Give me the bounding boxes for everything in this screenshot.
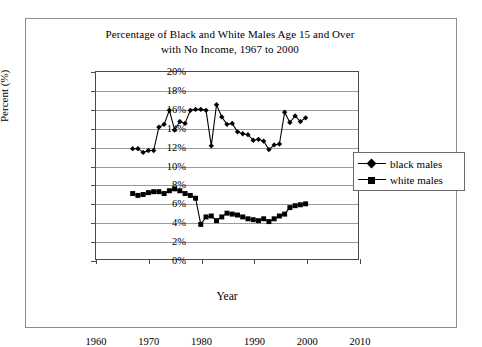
y-tick [91,129,96,130]
x-tick-label: 1960 [86,336,107,347]
y-tick-label: 8% [172,180,186,191]
chart-title-line-2: with No Income, 1967 to 2000 [40,42,420,57]
y-axis-ticks [96,72,358,259]
x-tick [202,259,203,264]
x-tick-label: 2000 [297,336,318,347]
y-tick-label: 10% [167,162,186,173]
square-marker-icon [358,173,386,187]
y-tick-label: 12% [167,143,186,154]
y-tick-label: 14% [167,124,186,135]
y-tick-label: 6% [172,199,186,210]
y-tick-label: 16% [167,105,186,116]
chart-legend: black males white males [353,152,465,191]
legend-item-white-males: white males [358,172,460,188]
y-tick-label: 0% [172,256,186,267]
chart-title: Percentage of Black and White Males Age … [40,27,420,57]
legend-label-black-males: black males [386,158,442,170]
y-tick-label: 4% [172,218,186,229]
y-tick [91,72,96,73]
y-tick [91,148,96,149]
y-tick [91,204,96,205]
x-tick [307,259,308,264]
y-tick [91,185,96,186]
x-tick [149,259,150,264]
y-tick-label: 20% [167,67,186,78]
y-axis-title: Percent (%) [0,70,10,122]
x-tick [96,259,97,264]
plot-area: 0%2%4%6%8%10%12%14%16%18%20% 19601970198… [95,71,359,260]
x-tick-label: 1990 [244,336,265,347]
y-tick [91,223,96,224]
legend-label-white-males: white males [386,174,443,186]
y-tick [91,242,96,243]
x-tick-label: 1970 [138,336,159,347]
x-axis-ticks [96,259,358,264]
y-tick [91,91,96,92]
x-tick-label: 2010 [350,336,371,347]
x-axis-title: Year [95,290,359,302]
y-tick-label: 18% [167,86,186,97]
y-axis-tick-labels: 0%2%4%6%8%10%12%14%16%18%20% [148,72,186,259]
chart-title-line-1: Percentage of Black and White Males Age … [40,27,420,42]
x-tick [360,259,361,264]
x-tick-label: 1980 [191,336,212,347]
y-tick [91,110,96,111]
y-tick-label: 2% [172,237,186,248]
y-tick [91,167,96,168]
diamond-marker-icon [358,157,386,171]
x-tick [254,259,255,264]
legend-item-black-males: black males [358,156,460,172]
